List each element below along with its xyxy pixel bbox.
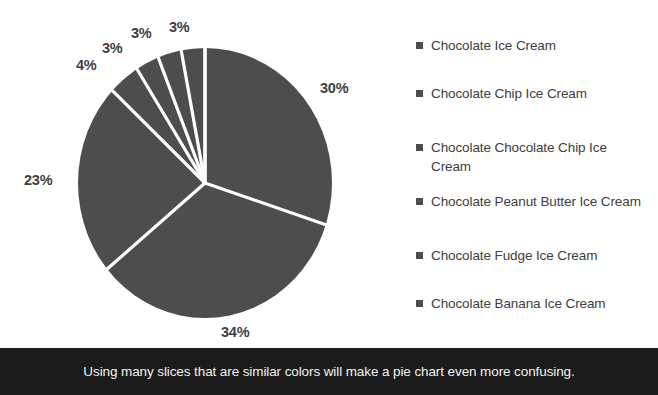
legend-swatch-icon xyxy=(416,90,423,97)
pie-slice-group xyxy=(78,48,332,318)
pie-percent-label: 30% xyxy=(320,80,348,96)
legend-item-label: Chocolate Ice Cream xyxy=(431,36,556,55)
caption-bar: Using many slices that are similar color… xyxy=(0,348,658,395)
legend-item[interactable]: Chocolate Chocolate Chip Ice Cream xyxy=(416,138,648,176)
legend-item-label: Chocolate Peanut Butter Ice Cream xyxy=(431,192,641,211)
pie-percent-label: 3% xyxy=(102,40,123,56)
pie-percent-label: 34% xyxy=(221,324,249,340)
legend-item[interactable]: Chocolate Banana Ice Cream xyxy=(416,294,648,313)
legend-item-label: Chocolate Fudge Ice Cream xyxy=(431,246,597,265)
chart-legend: Chocolate Ice CreamChocolate Chip Ice Cr… xyxy=(416,22,652,322)
pie-percent-label: 4% xyxy=(76,57,97,73)
legend-item-label: Chocolate Chocolate Chip Ice Cream xyxy=(431,138,648,176)
legend-swatch-icon xyxy=(416,144,423,151)
legend-swatch-icon xyxy=(416,300,423,307)
legend-item[interactable]: Chocolate Peanut Butter Ice Cream xyxy=(416,192,648,211)
pie-percent-label: 23% xyxy=(24,172,52,188)
legend-item[interactable]: Chocolate Chip Ice Cream xyxy=(416,84,648,103)
legend-swatch-icon xyxy=(416,198,423,205)
pie-chart: 30%34%23%4%3%3%3% xyxy=(0,0,410,348)
legend-item-label: Chocolate Chip Ice Cream xyxy=(431,84,587,103)
legend-item[interactable]: Chocolate Fudge Ice Cream xyxy=(416,246,648,265)
legend-item[interactable]: Chocolate Ice Cream xyxy=(416,36,648,55)
pie-percent-label: 3% xyxy=(131,25,152,41)
pie-chart-svg xyxy=(0,0,410,348)
legend-swatch-icon xyxy=(416,252,423,259)
slide-canvas: 30%34%23%4%3%3%3% Chocolate Ice CreamCho… xyxy=(0,0,658,395)
caption-text: Using many slices that are similar color… xyxy=(83,364,574,379)
pie-percent-label: 3% xyxy=(169,19,190,35)
legend-swatch-icon xyxy=(416,42,423,49)
legend-item-label: Chocolate Banana Ice Cream xyxy=(431,294,606,313)
